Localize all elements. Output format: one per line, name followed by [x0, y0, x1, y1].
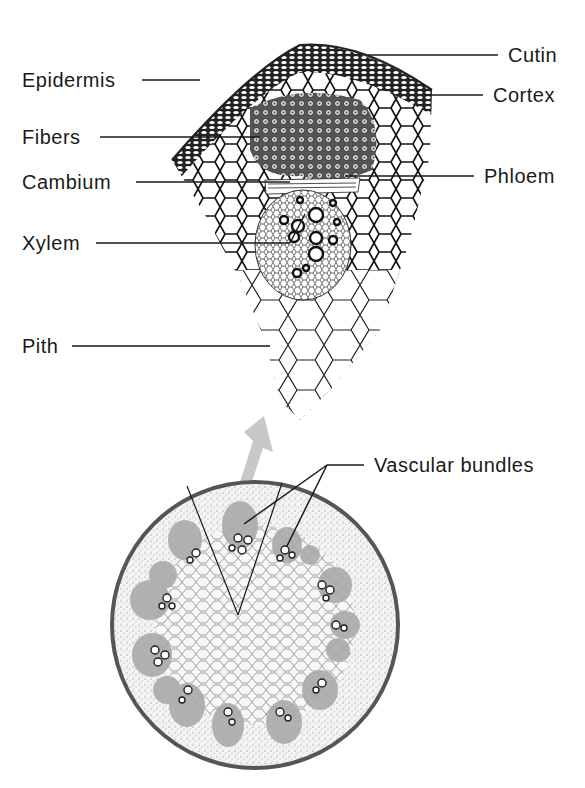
- wedge-detail: [160, 30, 460, 430]
- label-cortex: Cortex: [493, 85, 555, 105]
- label-cutin: Cutin: [508, 45, 557, 65]
- label-phloem: Phloem: [484, 166, 555, 186]
- label-pith: Pith: [22, 336, 58, 356]
- label-vascular-bundles: Vascular bundles: [374, 455, 534, 475]
- label-xylem: Xylem: [22, 233, 80, 253]
- stem-cross-section: [112, 465, 398, 768]
- label-cambium: Cambium: [22, 172, 111, 192]
- label-fibers: Fibers: [22, 127, 81, 147]
- label-epidermis: Epidermis: [22, 70, 115, 90]
- diagram-artwork: [0, 0, 585, 788]
- stem-cross-section-diagram: Epidermis Fibers Cambium Xylem Pith Cuti…: [0, 0, 585, 788]
